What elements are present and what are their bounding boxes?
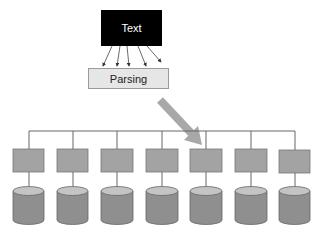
partition-box [190, 149, 222, 172]
database-icon [57, 187, 88, 225]
parsing-node: Parsing [88, 68, 169, 89]
partition-4 [146, 131, 178, 225]
partition-box [57, 149, 88, 172]
partition-7 [279, 131, 310, 225]
partition-box [13, 149, 44, 172]
partition-box [146, 149, 178, 172]
parsing-label: Parsing [110, 73, 147, 85]
database-icon [101, 187, 133, 225]
partition-2 [57, 131, 88, 225]
database-icon [13, 187, 44, 225]
source-to-parser-arrows [103, 46, 161, 66]
partition-box [235, 149, 267, 172]
arrow-4 [138, 46, 146, 66]
arrow-5 [147, 46, 161, 62]
partition-box [279, 150, 310, 173]
partition-5 [190, 131, 222, 225]
partition-6 [235, 131, 267, 225]
big-arrow-icon [160, 100, 202, 145]
partition-3 [101, 131, 133, 225]
arrow-1 [103, 46, 112, 66]
partition-1 [13, 131, 44, 225]
database-icon [235, 187, 267, 225]
database-icon [146, 187, 178, 225]
partition-box [101, 149, 133, 172]
database-icon [190, 187, 222, 225]
partition-row [13, 131, 310, 225]
database-icon [279, 187, 310, 225]
arrow-3 [127, 46, 129, 66]
text-source-node: Text [101, 10, 162, 46]
arrow-2 [117, 46, 120, 66]
text-source-label: Text [121, 22, 141, 34]
